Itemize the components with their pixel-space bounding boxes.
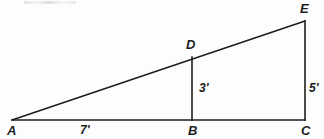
measure-label-segment-AB: 7'	[80, 124, 90, 136]
vertex-label-A: A	[7, 124, 16, 137]
vertex-label-E: E	[300, 2, 309, 15]
geometry-figure: A B C D E 7' 3' 5'	[0, 0, 324, 139]
segment-hypotenuse-AE	[12, 21, 305, 120]
diagram-canvas	[0, 0, 324, 139]
measure-label-segment-EC: 5'	[309, 82, 319, 94]
measure-label-segment-DB: 3'	[199, 82, 209, 94]
vertex-label-C: C	[301, 124, 310, 137]
vertex-label-B: B	[188, 124, 197, 137]
vertex-label-D: D	[186, 38, 195, 51]
